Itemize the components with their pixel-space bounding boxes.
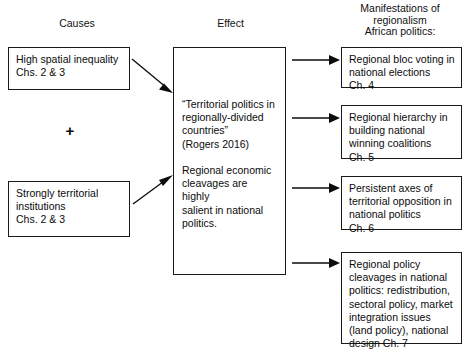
effect-box-territorial-politics: “Territorial politics in regionally-divi… xyxy=(173,47,286,275)
arrow-effect-to-manifestation3 xyxy=(292,183,340,193)
arrow-effect-to-manifestation2 xyxy=(292,113,340,123)
arrow-effect-to-manifestation4 xyxy=(292,258,340,268)
column-header-manifestations: Manifestations of regionalism African po… xyxy=(337,3,463,38)
plus-operator: + xyxy=(62,123,78,139)
arrow-cause2-to-effect xyxy=(133,175,173,204)
manifestation-box-regional-hierarchy: Regional hierarchy in building national … xyxy=(341,105,462,159)
column-header-causes: Causes xyxy=(22,18,132,30)
manifestation-box-persistent-axes: Persistent axes of territorial oppositio… xyxy=(341,176,462,230)
cause-box-strongly-territorial-institutions: Strongly territorial institutions Chs. 2… xyxy=(8,181,130,237)
arrow-effect-to-manifestation1 xyxy=(292,55,340,65)
manifestation-box-regional-bloc-voting: Regional bloc voting in national electio… xyxy=(341,47,462,88)
cause-box-high-spatial-inequality: High spatial inequality Chs. 2 & 3 xyxy=(8,47,130,90)
flow-diagram: Causes Effect Manifestations of regional… xyxy=(0,0,467,353)
manifestation-box-regional-policy-cleavages: Regional policy cleavages in national po… xyxy=(341,252,462,344)
arrow-cause1-to-effect xyxy=(132,59,173,93)
column-header-effect: Effect xyxy=(178,18,283,30)
